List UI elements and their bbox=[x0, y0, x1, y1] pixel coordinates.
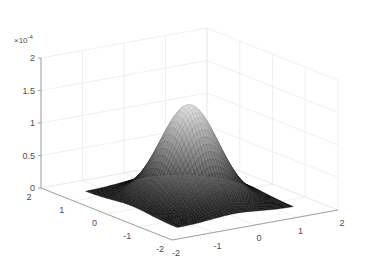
y-tick-label: 1 bbox=[59, 205, 64, 215]
z-tick-label: 2 bbox=[30, 53, 35, 63]
y-tick-label: 0 bbox=[92, 218, 97, 228]
surface-mesh bbox=[86, 105, 294, 228]
z-tick-label: 0.5 bbox=[22, 151, 35, 161]
y-tick-label: 2 bbox=[26, 192, 31, 202]
z-exponent-label: ×10-4 bbox=[14, 34, 34, 45]
x-tick-label: -1 bbox=[213, 241, 221, 251]
x-tick-label: 1 bbox=[298, 226, 303, 236]
surface-plot: ×10-4 00.511.52-2-1012-2-1012 bbox=[0, 0, 366, 278]
y-tick-label: -1 bbox=[123, 231, 131, 241]
z-tick-label: 1 bbox=[30, 118, 35, 128]
x-tick-label: -2 bbox=[172, 248, 180, 258]
x-tick-label: 0 bbox=[256, 233, 261, 243]
x-tick-label: 2 bbox=[339, 218, 344, 228]
z-tick-label: 1.5 bbox=[22, 86, 35, 96]
y-tick-label: -2 bbox=[156, 244, 164, 254]
